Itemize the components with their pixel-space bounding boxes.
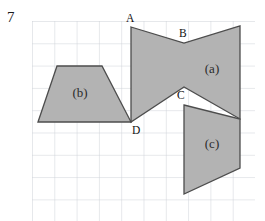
shape-b-label: (b) (72, 86, 87, 99)
vertex-label-c: C (177, 90, 185, 102)
vertex-label-b: B (179, 28, 187, 40)
vertex-label-d: D (132, 125, 140, 137)
shape-a-label: (a) (205, 62, 219, 75)
vertex-label-a: A (126, 13, 134, 25)
geometry-figure (0, 0, 265, 221)
shape-c-label: (c) (205, 137, 219, 150)
figure-page: 7 (a) (b) (c) A B C D (0, 0, 265, 221)
